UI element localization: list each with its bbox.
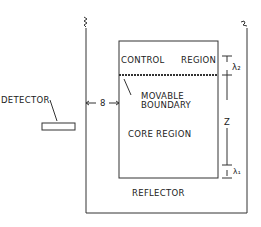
boundary-label: BOUNDARY (141, 101, 191, 110)
reactor-diagram: DETECTOR CONTROL REGION MOVABLE BOUNDARY… (0, 0, 261, 227)
delta-label: 8 (100, 99, 106, 108)
detector-leader (50, 100, 57, 121)
reflector-label: REFLECTOR (132, 189, 185, 198)
core-region-label: CORE REGION (128, 130, 191, 139)
break-mark-left (84, 17, 87, 27)
region-label: REGION (181, 56, 216, 65)
lambda1-label: λ₁ (233, 168, 241, 176)
control-label: CONTROL (121, 56, 165, 65)
lambda2-label: λ₂ (232, 63, 241, 72)
detector-label: DETECTOR (1, 96, 50, 105)
detector-rect (42, 123, 75, 130)
z-label: Z (224, 118, 230, 127)
boundary-leader (124, 79, 131, 95)
diagram-lines (0, 0, 261, 227)
break-mark-right (241, 21, 247, 26)
